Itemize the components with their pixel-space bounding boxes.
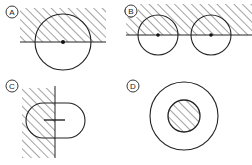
diagram-stage: A B B C D: [0, 0, 252, 165]
panel-a: A: [6, 6, 106, 70]
center-dot-b-left: [156, 33, 160, 37]
label-a: A: [9, 8, 15, 17]
svg-text:B: B: [128, 7, 133, 16]
panel-c: C: [6, 80, 85, 158]
hatched-region-c: [22, 88, 55, 158]
center-dot-b-right: [209, 33, 213, 37]
panel-d: D: [127, 80, 218, 150]
label-d: D: [130, 82, 136, 91]
label-c: C: [9, 82, 15, 91]
diagram-svg: A B B C D: [0, 0, 252, 165]
center-dot-a: [61, 40, 65, 44]
panel-b: B B: [125, 4, 252, 55]
inner-hatched-disk-d: [168, 100, 200, 132]
hatched-region-a: [20, 8, 106, 42]
